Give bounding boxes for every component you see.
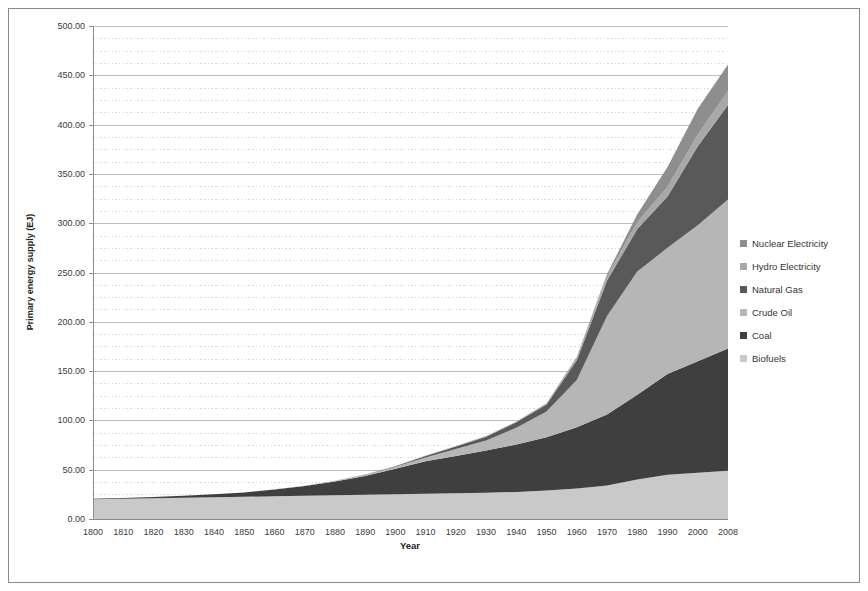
- energy-supply-figure: 0.0050.00100.00150.00200.00250.00300.003…: [0, 0, 868, 591]
- x-tick-label: 1950: [537, 527, 557, 537]
- chart-legend: Nuclear ElectricityHydro ElectricityNatu…: [740, 232, 828, 370]
- y-tick-label: 0.00: [67, 514, 85, 524]
- x-tick-label: 1990: [658, 527, 678, 537]
- legend-label: Crude Oil: [752, 307, 792, 318]
- y-tick-label: 50.00: [62, 465, 85, 475]
- x-tick-label: 1940: [506, 527, 526, 537]
- y-tick-label: 300.00: [57, 218, 85, 228]
- legend-label: Nuclear Electricity: [752, 238, 828, 249]
- legend-item-natural-gas: Natural Gas: [740, 278, 828, 301]
- x-tick-label: 2000: [688, 527, 708, 537]
- x-tick-label: 1800: [83, 527, 103, 537]
- x-tick-label: 1910: [416, 527, 436, 537]
- y-tick-label: 400.00: [57, 120, 85, 130]
- y-tick-label: 150.00: [57, 366, 85, 376]
- x-tick-label: 1810: [113, 527, 133, 537]
- legend-item-nuclear-electricity: Nuclear Electricity: [740, 232, 828, 255]
- legend-swatch-icon: [740, 332, 747, 339]
- stacked-area-chart: 0.0050.00100.00150.00200.00250.00300.003…: [0, 0, 868, 591]
- y-tick-label: 250.00: [57, 268, 85, 278]
- x-tick-label: 1960: [567, 527, 587, 537]
- x-tick-label: 1820: [143, 527, 163, 537]
- legend-label: Biofuels: [752, 353, 786, 364]
- legend-item-hydro-electricity: Hydro Electricity: [740, 255, 828, 278]
- legend-swatch-icon: [740, 263, 747, 270]
- x-tick-label: 1870: [295, 527, 315, 537]
- x-tick-label: 1890: [355, 527, 375, 537]
- x-tick-label: 1840: [204, 527, 224, 537]
- legend-label: Natural Gas: [752, 284, 803, 295]
- x-tick-label: 1850: [234, 527, 254, 537]
- x-tick-label: 2008: [718, 527, 738, 537]
- x-tick-label: 1880: [325, 527, 345, 537]
- x-tick-label: 1920: [446, 527, 466, 537]
- x-tick-label: 1970: [597, 527, 617, 537]
- x-tick-label: 1830: [174, 527, 194, 537]
- x-tick-label: 1860: [264, 527, 284, 537]
- y-tick-label: 200.00: [57, 317, 85, 327]
- legend-item-coal: Coal: [740, 324, 828, 347]
- legend-item-biofuels: Biofuels: [740, 347, 828, 370]
- y-tick-label: 100.00: [57, 415, 85, 425]
- x-axis-title: Year: [400, 540, 420, 551]
- y-tick-label: 450.00: [57, 70, 85, 80]
- x-tick-label: 1980: [627, 527, 647, 537]
- legend-swatch-icon: [740, 309, 747, 316]
- legend-swatch-icon: [740, 286, 747, 293]
- y-tick-label: 350.00: [57, 169, 85, 179]
- legend-swatch-icon: [740, 240, 747, 247]
- x-tick-label: 1900: [385, 527, 405, 537]
- legend-label: Hydro Electricity: [752, 261, 821, 272]
- legend-item-crude-oil: Crude Oil: [740, 301, 828, 324]
- legend-label: Coal: [752, 330, 772, 341]
- legend-swatch-icon: [740, 355, 747, 362]
- x-tick-label: 1930: [476, 527, 496, 537]
- y-tick-label: 500.00: [57, 21, 85, 31]
- y-axis-title: Primary energy supply (EJ): [25, 214, 35, 331]
